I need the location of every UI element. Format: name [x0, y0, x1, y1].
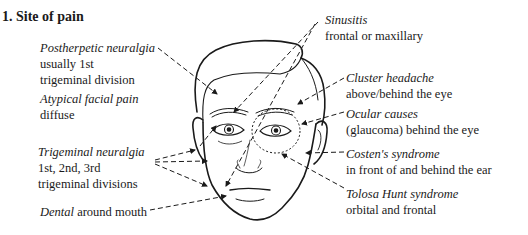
- arrow-trigeminal-3: [155, 164, 207, 186]
- leader-lines: [150, 22, 344, 210]
- arrow-trigeminal-1: [155, 150, 195, 160]
- arrow-sinusitis-frontal: [234, 22, 318, 112]
- arrow-dental: [150, 196, 226, 210]
- face-diagram: [0, 0, 528, 235]
- arrow-sinusitis-maxillary: [226, 24, 315, 186]
- arrow-cluster: [298, 78, 344, 104]
- nose-mouth: [230, 140, 270, 201]
- arrow-trigeminal-2: [155, 161, 207, 162]
- arrow-tolosa: [282, 154, 344, 188]
